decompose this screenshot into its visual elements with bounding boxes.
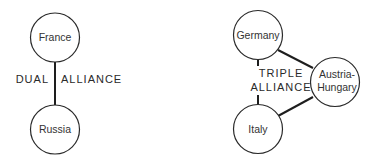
triple-alliance-label-line2: ALLIANCE: [250, 81, 311, 93]
dual-alliance-label-right: ALLIANCE: [61, 73, 122, 85]
node-label-france: France: [39, 31, 72, 43]
node-label-germany: Germany: [236, 29, 280, 41]
node-label-austria-hungary-line1: Austria-: [319, 68, 356, 80]
dual-alliance-group: France Russia DUAL ALLIANCE: [16, 13, 123, 154]
node-label-italy: Italy: [248, 123, 268, 135]
triple-alliance-label-line1: TRIPLE: [259, 67, 304, 79]
edge-germany-austria-hungary: [278, 50, 313, 68]
triple-alliance-group: Germany Austria- Hungary Italy TRIPLE AL…: [234, 11, 360, 154]
alliance-diagram: France Russia DUAL ALLIANCE Germany Aust…: [0, 0, 374, 163]
dual-alliance-label-left: DUAL: [16, 73, 49, 85]
node-label-austria-hungary-line2: Hungary: [317, 81, 357, 93]
edge-italy-austria-hungary: [278, 97, 313, 116]
node-label-russia: Russia: [39, 123, 71, 135]
